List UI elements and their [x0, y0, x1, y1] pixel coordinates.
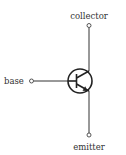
base-terminal: [30, 79, 34, 83]
transistor-symbol: [68, 69, 92, 93]
base-label: base: [4, 76, 24, 86]
collector-lead: [77, 71, 90, 78]
emitter-label: emitter: [73, 142, 106, 152]
emitter-terminal: [87, 133, 91, 137]
collector-label: collector: [70, 11, 109, 21]
collector-terminal: [87, 24, 91, 28]
transistor-diagram: collector base emitter: [0, 0, 126, 155]
emitter-lead: [77, 84, 90, 91]
